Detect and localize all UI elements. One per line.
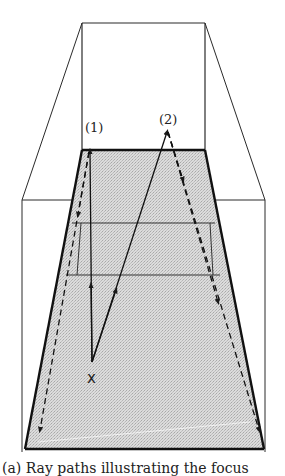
figure-caption: (a) Ray paths illustrating the focus <box>2 461 249 475</box>
shaded-trapezoid <box>25 150 264 449</box>
path-1-label: (1) <box>85 121 103 134</box>
source-point-marker: x <box>87 371 96 386</box>
path-2-label: (2) <box>159 113 177 126</box>
